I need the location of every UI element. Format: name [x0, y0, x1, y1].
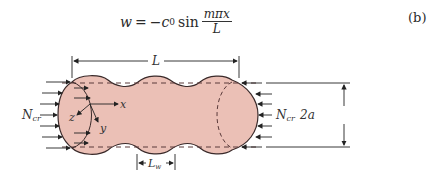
axis-y-label: y — [99, 122, 107, 135]
axis-x-label: x — [120, 98, 127, 111]
length-label: L — [151, 54, 160, 68]
buckled-cylinder-diagram: L Lw Ncr Ncr 2a x — [0, 0, 439, 182]
shell-body — [58, 76, 258, 155]
right-load-label: Ncr — [275, 108, 296, 123]
left-load-label: Ncr — [21, 108, 42, 123]
axis-z-label: z — [68, 111, 75, 124]
wave-length-label: Lw — [147, 157, 161, 171]
diameter-label: 2a — [299, 108, 315, 122]
